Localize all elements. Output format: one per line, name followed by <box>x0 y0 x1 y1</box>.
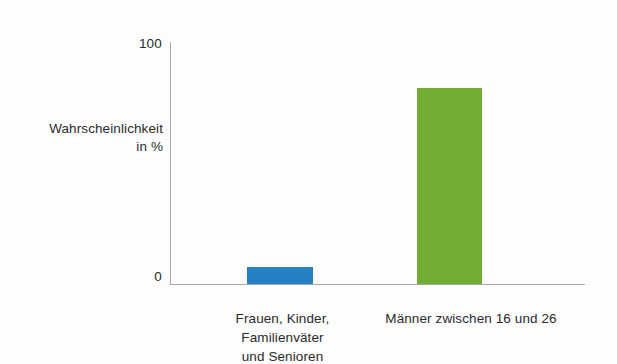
y-axis-tick-0: 0 <box>102 269 162 284</box>
bar-chart-figure: Wahrscheinlichkeit in % 100 0 Frauen, Ki… <box>0 0 617 364</box>
y-axis-title: Wahrscheinlichkeit in % <box>8 120 163 156</box>
plot-area <box>171 42 585 284</box>
bar-maenner-16-bis-26 <box>417 88 482 284</box>
y-axis-title-line-1: Wahrscheinlichkeit <box>49 121 163 136</box>
category-0-line-3: und Senioren <box>205 347 360 364</box>
y-axis-title-line-2: in % <box>8 138 163 156</box>
x-axis-category-label-1: Männer zwischen 16 und 26 <box>360 309 582 328</box>
category-0-line-1: Frauen, Kinder, <box>205 309 360 328</box>
category-1-line-1: Männer zwischen 16 und 26 <box>360 309 582 328</box>
y-axis-tick-100: 100 <box>102 36 162 51</box>
bar-frauen-kinder-familienvaeter-senioren <box>247 267 313 284</box>
x-axis-category-label-0: Frauen, Kinder, Familienväter und Senior… <box>205 309 360 364</box>
x-axis-line <box>170 284 585 285</box>
category-0-line-2: Familienväter <box>205 328 360 347</box>
